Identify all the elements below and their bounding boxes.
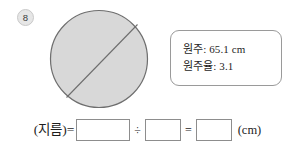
given-values-box: 원주: 65.1 cm 원주율: 3.1 <box>170 30 282 86</box>
equation-row: (지름)= ÷ = (cm) <box>0 115 295 145</box>
answer-blank-2[interactable] <box>145 119 181 141</box>
divide-operator: ÷ <box>130 124 145 136</box>
answer-blank-1[interactable] <box>76 119 130 141</box>
circle-shape <box>51 11 148 108</box>
unit-label: (cm) <box>232 124 262 137</box>
answer-blank-3[interactable] <box>196 119 232 141</box>
equals-operator: = <box>181 124 196 136</box>
problem-number-label: 8 <box>23 13 28 23</box>
worksheet-problem: 8 원주: 65.1 cm 원주율: 3.1 (지름)= ÷ = (cm) <box>0 0 295 149</box>
circle-with-diameter-icon <box>49 9 149 109</box>
problem-number-badge: 8 <box>17 9 34 26</box>
pi-value-line: 원주율: 3.1 <box>183 58 281 75</box>
circumference-line: 원주: 65.1 cm <box>183 41 281 58</box>
circle-diagram <box>49 9 149 109</box>
diameter-label: (지름)= <box>34 123 75 137</box>
